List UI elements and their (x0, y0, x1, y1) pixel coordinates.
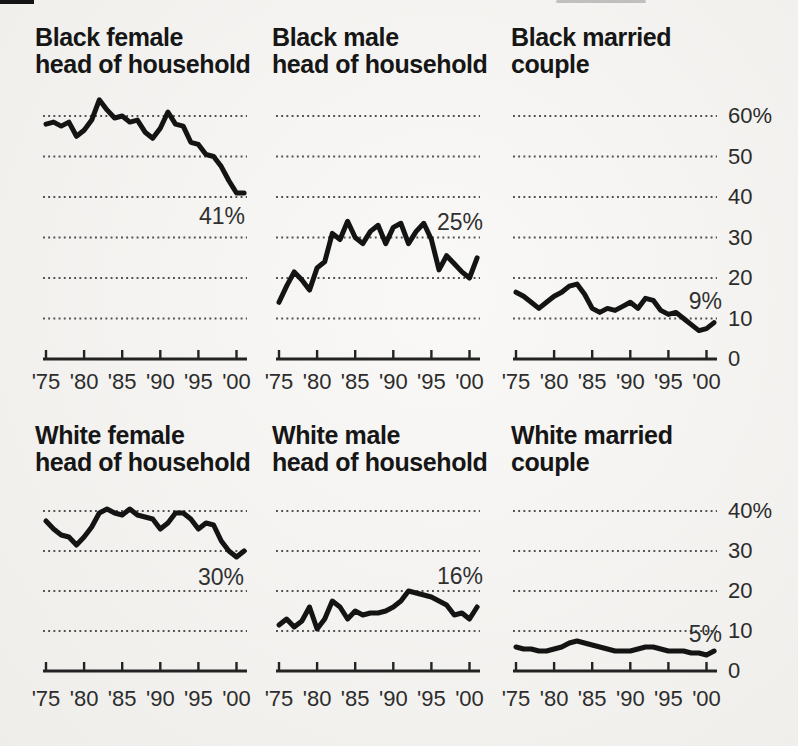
data-line (279, 591, 477, 629)
value-label-white-female: 30% (122, 564, 244, 591)
y-axis-label: 10 (728, 618, 752, 644)
title-line: Black married (511, 24, 671, 51)
value-label-black-married: 9% (600, 288, 722, 315)
x-tick-label: '00 (684, 686, 730, 712)
data-line (46, 100, 244, 193)
title-line: Black female (35, 24, 250, 51)
value-label-black-female: 41% (123, 203, 245, 230)
title-line: couple (511, 449, 673, 476)
title-line: head of household (272, 449, 487, 476)
y-axis-label: 40% (728, 498, 772, 524)
chart-title-white-female-hoh: White female head of household (35, 422, 250, 476)
data-line (46, 509, 244, 557)
chart-title-black-female-hoh: Black female head of household (35, 24, 250, 78)
x-tick-label: '00 (214, 369, 260, 395)
title-line: head of household (272, 51, 487, 78)
title-line: White married (511, 422, 673, 449)
x-tick-label: '00 (214, 686, 260, 712)
title-line: White male (272, 422, 487, 449)
x-tick-label: '00 (447, 686, 493, 712)
poverty-small-multiples-figure: Black female head of household Black mal… (0, 0, 798, 746)
chart-title-white-married-couple: White married couple (511, 422, 673, 476)
y-axis-label: 0 (728, 658, 740, 684)
x-tick-label: '00 (447, 369, 493, 395)
y-axis-label: 0 (728, 346, 740, 372)
value-label-white-male: 16% (361, 563, 483, 590)
y-axis-label: 40 (728, 184, 752, 210)
y-axis-label: 20 (728, 578, 752, 604)
y-axis-label: 60% (728, 103, 772, 129)
title-line: couple (511, 51, 671, 78)
y-axis-label: 50 (728, 144, 752, 170)
chart-title-white-male-hoh: White male head of household (272, 422, 487, 476)
chart-title-black-married-couple: Black married couple (511, 24, 671, 78)
y-axis-label: 30 (728, 538, 752, 564)
title-line: White female (35, 422, 250, 449)
y-axis-label: 20 (728, 265, 752, 291)
y-axis-label: 30 (728, 225, 752, 251)
title-line: head of household (35, 449, 250, 476)
value-label-white-married: 5% (600, 621, 722, 648)
chart-title-black-male-hoh: Black male head of household (272, 24, 487, 78)
y-axis-label: 10 (728, 306, 752, 332)
title-line: head of household (35, 51, 250, 78)
value-label-black-male: 25% (361, 209, 483, 236)
title-line: Black male (272, 24, 487, 51)
x-tick-label: '00 (684, 369, 730, 395)
